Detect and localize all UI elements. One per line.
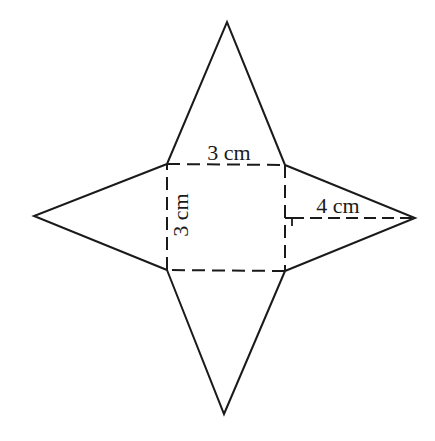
right-angle-marker	[285, 218, 292, 226]
bottom-triangle-face	[167, 270, 285, 414]
base-side-label: 3 cm	[168, 193, 193, 236]
left-triangle-face	[34, 164, 167, 270]
base-top-label: 3 cm	[207, 140, 250, 165]
square-base-bottom-edge	[167, 270, 285, 271]
slant-height-label: 4 cm	[316, 193, 359, 218]
pyramid-net-diagram: 3 cm 3 cm 4 cm	[0, 0, 435, 441]
